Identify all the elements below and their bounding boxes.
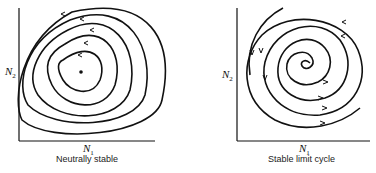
- right-panel-title: Stable limit cycle: [268, 154, 335, 164]
- neutral-arrow-icons: [61, 12, 94, 57]
- left-panel-title: Neutrally stable: [56, 154, 118, 164]
- equilibrium-point: [79, 70, 83, 74]
- diagram-canvas: [0, 0, 376, 173]
- left-y-axis-label: N2: [5, 65, 16, 80]
- right-y-axis-label: N2: [222, 68, 233, 83]
- neutral-orbits: [18, 8, 165, 134]
- right-axes: [237, 8, 370, 141]
- left-axes: [19, 8, 155, 141]
- limit-cycle-spirals: [247, 8, 362, 127]
